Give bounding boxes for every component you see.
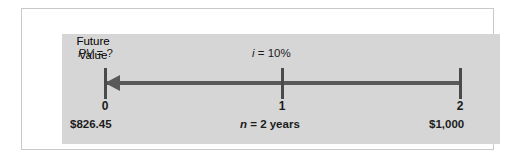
timeline-tick-2: [459, 68, 462, 99]
periods-label: n = 2 years: [240, 118, 300, 130]
figure-canvas: PV = ? i = 10% Future Value 0 1 2 $826.4…: [0, 0, 516, 159]
pv-value-text: = ?: [93, 47, 113, 59]
present-value-label: PV = ?: [78, 47, 113, 60]
n-symbol: n: [240, 118, 247, 130]
pv-symbol: PV: [78, 47, 93, 59]
timeline-tick-0: [104, 68, 107, 99]
period-number-2: 2: [445, 100, 475, 113]
present-value-amount: $826.45: [70, 118, 112, 131]
arrow-left-icon: [105, 75, 120, 91]
period-number-0: 0: [90, 100, 120, 113]
interest-value-text: = 10%: [255, 47, 291, 59]
timeline: PV = ? i = 10% Future Value 0 1 2 $826.4…: [62, 34, 500, 144]
timeline-tick-1: [281, 68, 284, 99]
period-number-1: 1: [267, 100, 297, 113]
future-value-amount: $1,000: [429, 118, 464, 131]
interest-rate-label: i = 10%: [252, 47, 291, 60]
figure-outer-frame: PV = ? i = 10% Future Value 0 1 2 $826.4…: [21, 8, 494, 150]
n-value-text: = 2 years: [247, 118, 300, 130]
diagram-panel: PV = ? i = 10% Future Value 0 1 2 $826.4…: [62, 34, 500, 144]
